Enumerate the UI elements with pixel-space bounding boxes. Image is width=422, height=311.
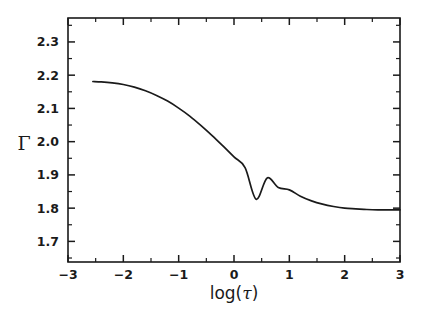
x-tick-label: −2 bbox=[114, 267, 133, 282]
x-tick-label: 0 bbox=[230, 267, 239, 282]
x-tick-label: 1 bbox=[285, 267, 294, 282]
x-tick-label: 3 bbox=[396, 267, 405, 282]
x-axis-title: log(τ) bbox=[210, 283, 259, 303]
y-tick-label: 2.0 bbox=[37, 134, 59, 149]
y-tick-label: 1.8 bbox=[37, 201, 59, 216]
y-tick-label: 2.3 bbox=[37, 34, 59, 49]
svg-text:log(τ): log(τ) bbox=[210, 283, 259, 303]
y-tick-label: 1.9 bbox=[37, 167, 59, 182]
figure-container: −3−2−10123 1.71.81.92.02.12.22.3 log(τ) … bbox=[0, 0, 422, 311]
svg-text:Γ: Γ bbox=[17, 132, 30, 154]
chart-background bbox=[0, 0, 422, 311]
line-chart: −3−2−10123 1.71.81.92.02.12.22.3 log(τ) … bbox=[0, 0, 422, 311]
y-tick-label: 2.1 bbox=[37, 101, 59, 116]
x-tick-label: 2 bbox=[340, 267, 349, 282]
x-tick-label: −3 bbox=[58, 267, 77, 282]
x-tick-label: −1 bbox=[169, 267, 188, 282]
y-axis-title: Γ bbox=[17, 132, 30, 154]
y-tick-label: 2.2 bbox=[37, 68, 59, 83]
y-tick-label: 1.7 bbox=[37, 234, 59, 249]
